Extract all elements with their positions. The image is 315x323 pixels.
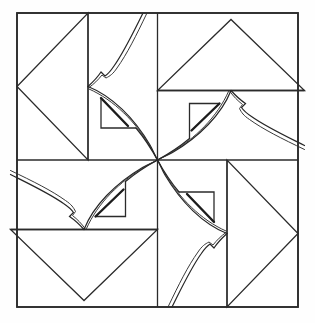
quilt-block-drawing: Quilt block line drawing Square pieced q… [0,0,315,323]
quilt-block-figure: Quilt block line drawing Square pieced q… [0,0,315,323]
